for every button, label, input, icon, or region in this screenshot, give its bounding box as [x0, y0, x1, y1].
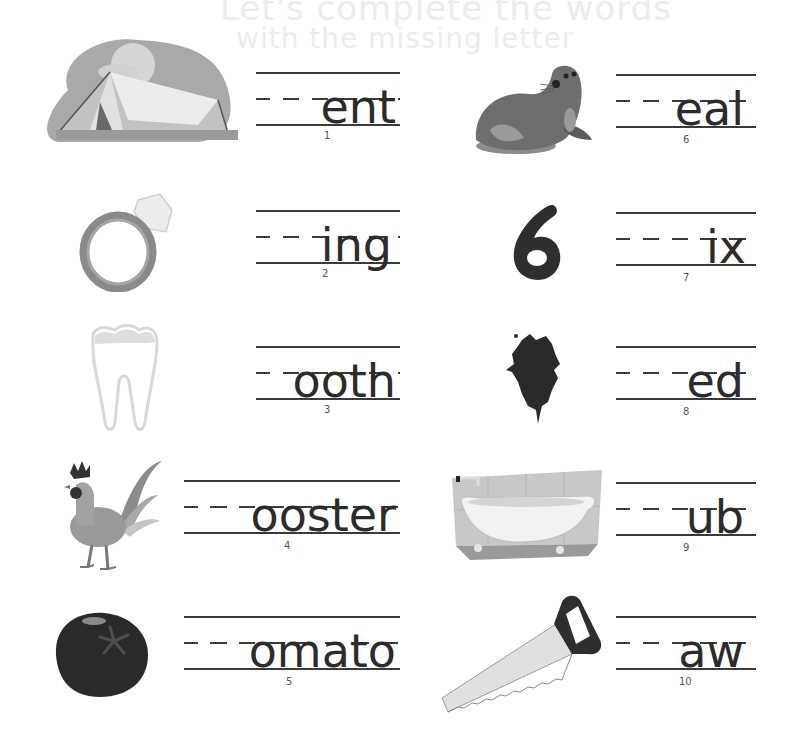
- word-ending-5: omato: [249, 628, 396, 674]
- item-number-4: 4: [284, 540, 290, 551]
- seal-picture: [468, 60, 598, 160]
- number-six-picture: [508, 202, 564, 282]
- word-ending-7: ix: [706, 224, 746, 270]
- writing-lines-2: ing: [256, 210, 400, 266]
- word-ending-8: ed: [687, 358, 745, 404]
- rooster-picture: [48, 455, 168, 575]
- writing-lines-10: aw: [616, 616, 756, 672]
- writing-lines-5: omato: [184, 616, 400, 672]
- word-ending-4: ooster: [250, 492, 396, 538]
- tooth-picture: [85, 322, 165, 434]
- ring-picture: [70, 192, 180, 292]
- word-ending-9: ub: [686, 494, 744, 540]
- tent-picture: [28, 30, 240, 160]
- item-number-9: 9: [683, 542, 689, 553]
- writing-lines-3: ooth: [256, 346, 400, 402]
- saw-picture: [438, 594, 608, 714]
- writing-lines-7: ix: [616, 212, 756, 268]
- writing-lines-9: ub: [616, 482, 756, 538]
- word-ending-2: ing: [321, 222, 392, 268]
- item-number-10: 10: [679, 676, 692, 687]
- item-number-6: 6: [683, 134, 689, 145]
- writing-lines-1: ent: [256, 72, 400, 128]
- background-show-through-text: with the missing letter: [236, 22, 574, 55]
- writing-lines-6: eal: [616, 74, 756, 130]
- item-number-5: 5: [286, 676, 292, 687]
- item-number-7: 7: [683, 272, 689, 283]
- word-ending-10: aw: [678, 628, 744, 674]
- word-ending-1: ent: [321, 84, 397, 130]
- item-number-2: 2: [322, 268, 328, 279]
- paint-splat-picture: [502, 330, 564, 426]
- writing-lines-8: ed: [616, 346, 756, 402]
- writing-lines-4: ooster: [184, 480, 400, 536]
- word-ending-3: ooth: [293, 358, 396, 404]
- item-number-8: 8: [683, 406, 689, 417]
- item-number-1: 1: [324, 130, 330, 141]
- word-ending-6: eal: [675, 86, 744, 132]
- tomato-picture: [48, 605, 152, 701]
- item-number-3: 3: [324, 404, 330, 415]
- bathtub-picture: [448, 466, 604, 566]
